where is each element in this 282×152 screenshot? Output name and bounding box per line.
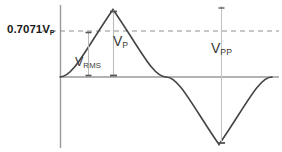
- sine-wave-figure: 0.7071VP VRMS VP VPP: [0, 0, 282, 152]
- v-peak-to-peak-label-sub: PP: [220, 47, 232, 57]
- v-peak-label-main: V: [113, 33, 122, 49]
- v-peak-to-peak-arrow: [218, 6, 225, 144]
- rms-level-label: 0.7071VP: [7, 24, 55, 36]
- v-rms-arrow: [86, 31, 92, 77]
- v-rms-label-sub: RMS: [83, 61, 101, 70]
- rms-level-label-sub: P: [50, 29, 55, 37]
- v-peak-label-sub: P: [122, 40, 128, 50]
- v-peak-to-peak-label-main: V: [211, 40, 220, 56]
- rms-level-label-main: 0.7071V: [7, 23, 50, 35]
- v-peak-label: VP: [113, 34, 128, 48]
- v-peak-to-peak-label: VPP: [211, 41, 232, 55]
- v-rms-label: VRMS: [75, 56, 101, 69]
